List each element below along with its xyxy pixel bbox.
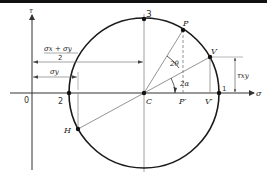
- two-alpha-label: 2α: [179, 80, 189, 88]
- mean-stress-denominator: 2: [58, 54, 62, 62]
- tau-xy-label: τxy: [237, 72, 250, 80]
- label-2: 2: [58, 97, 63, 106]
- origin-label: 0: [24, 96, 29, 105]
- label-1: 1: [222, 85, 226, 93]
- sigma-y-arrow-right: [72, 75, 77, 78]
- label-p-proj: P′: [178, 97, 186, 106]
- label-v: V: [211, 47, 218, 56]
- label-3: 3: [146, 9, 152, 19]
- label-p: P: [182, 19, 189, 28]
- two-theta-label: 2θ: [169, 60, 179, 68]
- point-h: [76, 127, 80, 131]
- point-1: [217, 91, 221, 95]
- point-p: [181, 28, 185, 32]
- sigma-y-label: σy: [50, 68, 60, 76]
- mean-stress-numerator: σx + σy: [44, 45, 73, 53]
- sigma-y-arrow-left: [33, 75, 38, 78]
- tau-axis-label: τ: [29, 7, 33, 15]
- label-h: H: [63, 126, 72, 135]
- label-v-proj: V′: [205, 97, 213, 106]
- mean-stress-arrow-left: [33, 60, 38, 63]
- two-alpha-arrowhead: [174, 87, 178, 93]
- sigma-axis-label: σ: [256, 89, 262, 98]
- label-c: C: [146, 97, 152, 106]
- mohr-circle-diagram: τ σ 0 τxy σx + σy 2 σy 2θ 2α 3 2 1 C P P…: [0, 0, 267, 182]
- two-alpha-arc: [171, 78, 175, 93]
- point-2: [67, 91, 71, 95]
- mean-stress-arrow-right: [138, 60, 143, 63]
- point-c: [142, 91, 146, 95]
